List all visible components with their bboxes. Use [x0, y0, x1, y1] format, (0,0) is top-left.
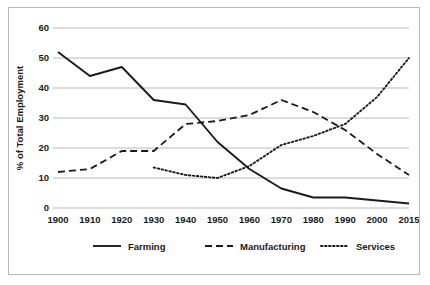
x-axis-tick-label: 1990 [335, 214, 356, 225]
x-axis-tick-label: 1920 [111, 214, 132, 225]
y-axis-tick-label: 0 [44, 202, 49, 213]
y-axis-tick-label: 50 [38, 52, 49, 63]
legend-label-services: Services [356, 241, 395, 252]
x-axis-tick-label: 2015 [398, 214, 419, 225]
y-axis-title: % of Total Employment [14, 65, 25, 170]
x-axis-tick-label: 1950 [207, 214, 228, 225]
legend-label-manufacturing: Manufacturing [240, 241, 306, 252]
x-axis-tick-label: 1980 [303, 214, 324, 225]
x-axis-tick-label: 1940 [175, 214, 196, 225]
series-line-farming [58, 52, 409, 204]
x-axis-tick-label: 1960 [239, 214, 260, 225]
x-axis-tick-label: 1970 [271, 214, 292, 225]
x-axis-tick-label: 1910 [79, 214, 100, 225]
series-line-manufacturing [58, 100, 409, 175]
y-axis-tick-label: 10 [38, 172, 49, 183]
line-chart: 0102030405060% of Total Employment190019… [9, 8, 419, 274]
x-axis-tick-label: 1930 [143, 214, 164, 225]
y-axis-tick-label: 20 [38, 142, 49, 153]
x-axis-tick-label: 1900 [47, 214, 68, 225]
legend-label-farming: Farming [128, 241, 166, 252]
y-axis-tick-label: 40 [38, 82, 49, 93]
chart-container: 0102030405060% of Total Employment190019… [8, 7, 420, 275]
y-axis-tick-label: 60 [38, 22, 49, 33]
y-axis-tick-label: 30 [38, 112, 49, 123]
x-axis-tick-label: 2000 [367, 214, 388, 225]
